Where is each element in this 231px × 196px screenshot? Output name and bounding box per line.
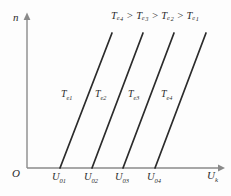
x-tick-label-u01: U01 (52, 172, 66, 183)
x-tick-u01-subscript: 01 (60, 177, 67, 184)
y-axis-arrowhead (24, 13, 31, 21)
curve-te2-subscript: e2 (101, 94, 107, 101)
figure-canvas (0, 0, 231, 196)
x-tick-label-u03: U03 (115, 172, 129, 183)
curve-te3-subscript: e3 (134, 94, 140, 101)
x-tick-u04-subscript: 04 (155, 177, 162, 184)
origin-label: O (12, 168, 20, 179)
curve-te3-base: T (128, 88, 134, 99)
characteristic-curves-group (60, 33, 206, 168)
x-tick-u01-base: U (52, 171, 60, 182)
y-axis-label: n (13, 12, 19, 23)
x-tick-u03-base: U (115, 171, 123, 182)
curve-label-te1: Te1 (61, 89, 72, 99)
curve-te1-base: T (61, 88, 67, 99)
x-axis-label-subscript: k (215, 176, 218, 183)
x-tick-u03-subscript: 03 (123, 177, 130, 184)
x-tick-label-u02: U02 (84, 172, 98, 183)
x-tick-u02-base: U (84, 171, 92, 182)
x-tick-u04-base: U (147, 171, 155, 182)
speed-voltage-characteristic-figure: n O Uk Tₑ₄ > Tₑ₃ > Tₑ₂ > Tₑ₁ U01 U02 U03… (0, 0, 231, 196)
x-tick-u02-subscript: 02 (92, 177, 99, 184)
curve-label-te3: Te3 (128, 89, 139, 99)
curve-te4-base: T (161, 88, 167, 99)
curve-te4-subscript: e4 (167, 94, 173, 101)
x-axis-label-base: U (207, 169, 215, 181)
x-axis-arrowhead (218, 164, 225, 171)
curve-label-te2: Te2 (95, 89, 106, 99)
x-tick-label-u04: U04 (147, 172, 161, 183)
curve-te2-base: T (95, 88, 101, 99)
curve-te4 (155, 33, 206, 168)
curve-label-te4: Te4 (161, 89, 172, 99)
curve-te1-subscript: e1 (67, 94, 73, 101)
x-axis-label: Uk (207, 170, 218, 181)
torque-ordering-annotation: Tₑ₄ > Tₑ₃ > Tₑ₂ > Tₑ₁ (111, 11, 199, 22)
